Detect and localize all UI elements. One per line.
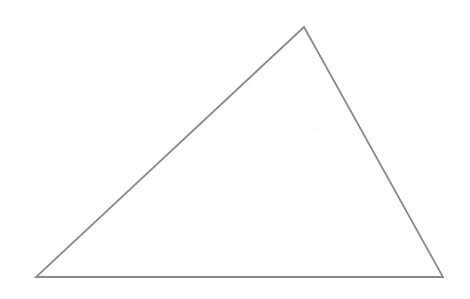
figure-canvas xyxy=(0,0,470,299)
triangle-drawing xyxy=(0,0,470,299)
triangle-outline xyxy=(36,27,443,277)
